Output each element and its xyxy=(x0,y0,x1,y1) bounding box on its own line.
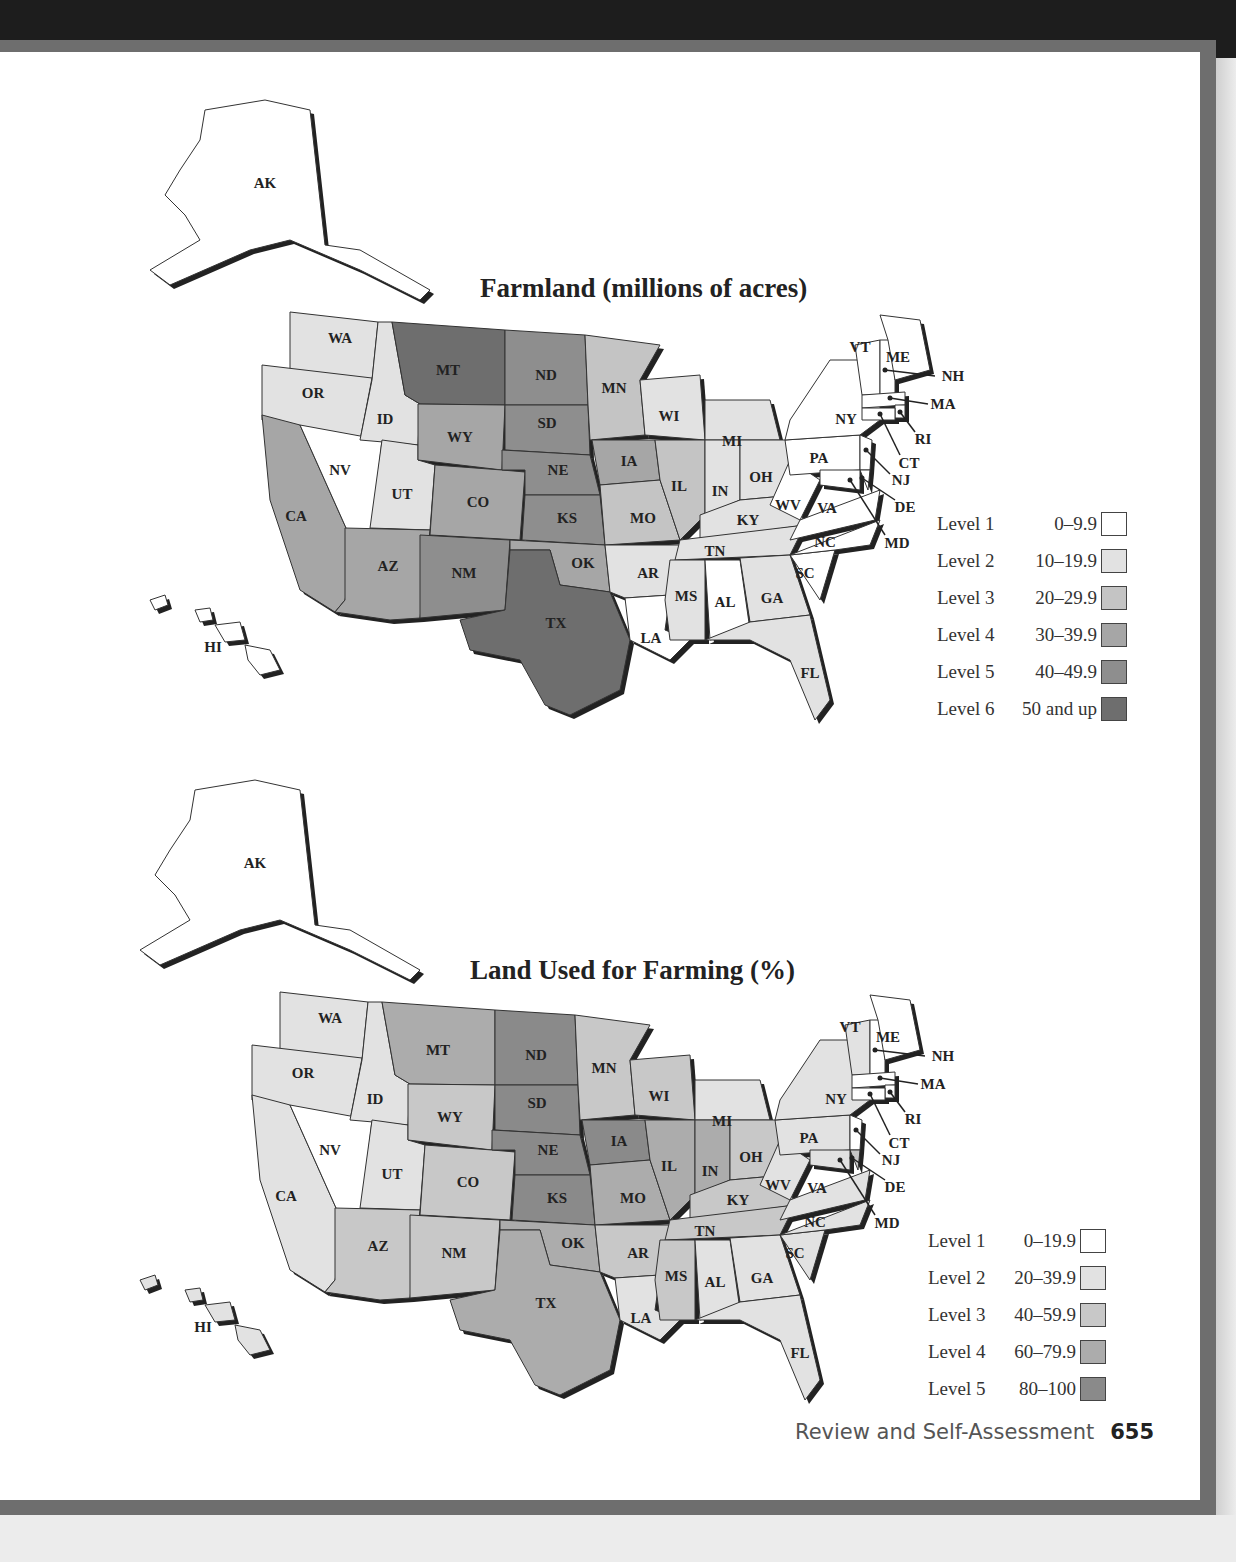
state-label-ak: AK xyxy=(244,855,267,872)
legend-level-label: Level 3 xyxy=(928,1304,998,1326)
state-label-wi: WI xyxy=(649,1088,670,1105)
state-ak xyxy=(140,780,420,980)
state-label-ga: GA xyxy=(751,1270,774,1287)
state-label-sd: SD xyxy=(527,1095,546,1112)
state-label-ct: CT xyxy=(889,1135,910,1152)
page-number: 655 xyxy=(1110,1420,1154,1444)
state-label-nc: NC xyxy=(804,1214,826,1231)
state-label-ar: AR xyxy=(627,1245,649,1262)
legend-row: Level 460–79.9 xyxy=(928,1333,1106,1370)
legend-row: Level 580–100 xyxy=(928,1370,1106,1407)
state-label-ky: KY xyxy=(727,1192,750,1209)
state-label-or: OR xyxy=(292,1065,315,1082)
state-label-ms: MS xyxy=(665,1268,688,1285)
legend-range-label: 80–100 xyxy=(998,1378,1080,1400)
state-label-ny: NY xyxy=(825,1091,847,1108)
legend-swatch xyxy=(1080,1303,1106,1327)
state-label-wv: WV xyxy=(765,1177,791,1194)
legend-range-label: 0–19.9 xyxy=(998,1230,1080,1252)
bottom-shadow xyxy=(0,1515,1236,1562)
state-label-nm: NM xyxy=(442,1245,467,1262)
legend-range-label: 20–39.9 xyxy=(998,1267,1080,1289)
state-label-il: IL xyxy=(661,1158,677,1175)
map-title: Land Used for Farming (%) xyxy=(470,955,795,986)
state-mi xyxy=(695,1080,770,1120)
legend-level-label: Level 5 xyxy=(928,1378,998,1400)
state-label-mn: MN xyxy=(592,1060,617,1077)
legend-level-label: Level 2 xyxy=(928,1267,998,1289)
state-label-mt: MT xyxy=(426,1042,450,1059)
state-label-ne: NE xyxy=(538,1142,559,1159)
state-label-md: MD xyxy=(875,1215,900,1232)
state-label-ca: CA xyxy=(275,1188,297,1205)
state-hi xyxy=(185,1288,203,1302)
state-label-de: DE xyxy=(885,1179,906,1196)
state-label-sc: SC xyxy=(785,1245,804,1262)
state-label-nd: ND xyxy=(525,1047,547,1064)
page-footer: Review and Self-Assessment655 xyxy=(795,1420,1154,1444)
state-label-ut: UT xyxy=(382,1166,403,1183)
state-hi xyxy=(235,1325,270,1355)
footer-section-title: Review and Self-Assessment xyxy=(795,1420,1094,1444)
legend-row: Level 340–59.9 xyxy=(928,1296,1106,1333)
legend-swatch xyxy=(1080,1229,1106,1253)
state-label-wy: WY xyxy=(437,1109,463,1126)
state-label-al: AL xyxy=(705,1274,726,1291)
state-label-me: ME xyxy=(876,1029,900,1046)
state-label-ma: MA xyxy=(921,1076,946,1093)
legend-swatch xyxy=(1080,1266,1106,1290)
state-label-nj: NJ xyxy=(882,1152,900,1169)
state-label-oh: OH xyxy=(739,1149,762,1166)
state-label-hi: HI xyxy=(194,1319,212,1336)
state-label-la: LA xyxy=(631,1310,652,1327)
state-label-nv: NV xyxy=(319,1142,341,1159)
state-label-co: CO xyxy=(457,1174,480,1191)
legend-swatch xyxy=(1080,1340,1106,1364)
state-label-ri: RI xyxy=(905,1111,922,1128)
state-label-id: ID xyxy=(367,1091,384,1108)
land-used-legend: Level 10–19.9Level 220–39.9Level 340–59.… xyxy=(928,1222,1106,1407)
state-label-mi: MI xyxy=(712,1113,732,1130)
state-label-in: IN xyxy=(702,1163,719,1180)
legend-row: Level 220–39.9 xyxy=(928,1259,1106,1296)
state-label-fl: FL xyxy=(790,1345,809,1362)
state-label-wa: WA xyxy=(318,1010,342,1027)
state-label-tn: TN xyxy=(695,1223,716,1240)
legend-range-label: 60–79.9 xyxy=(998,1341,1080,1363)
state-label-va: VA xyxy=(807,1180,827,1197)
state-label-ks: KS xyxy=(547,1190,567,1207)
legend-level-label: Level 4 xyxy=(928,1341,998,1363)
legend-swatch xyxy=(1080,1377,1106,1401)
state-label-ok: OK xyxy=(561,1235,584,1252)
state-label-nh: NH xyxy=(932,1048,955,1065)
legend-level-label: Level 1 xyxy=(928,1230,998,1252)
state-label-vt: VT xyxy=(840,1019,861,1036)
state-label-pa: PA xyxy=(800,1130,819,1147)
state-label-ia: IA xyxy=(611,1133,628,1150)
legend-range-label: 40–59.9 xyxy=(998,1304,1080,1326)
state-label-mo: MO xyxy=(620,1190,646,1207)
state-label-tx: TX xyxy=(536,1295,557,1312)
legend-row: Level 10–19.9 xyxy=(928,1222,1106,1259)
state-label-az: AZ xyxy=(368,1238,389,1255)
